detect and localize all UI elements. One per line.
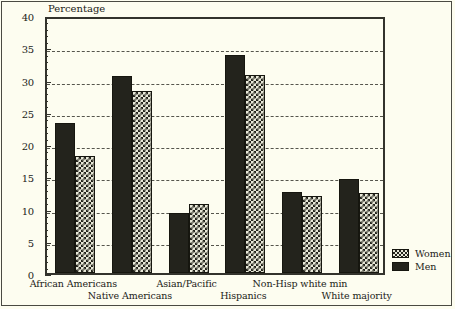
bar-women-1 (132, 91, 152, 273)
y-major-tick (45, 243, 51, 244)
bar-women-2 (189, 204, 209, 273)
legend-label-women: Women (415, 248, 451, 259)
y-minor-tick (45, 120, 48, 121)
x-tick-label-3: Hispanics (220, 290, 266, 301)
bar-men-2 (169, 213, 189, 273)
y-major-tick (45, 211, 51, 212)
y-tick-label: 30 (0, 76, 34, 87)
y-minor-tick (45, 262, 48, 263)
y-minor-tick (45, 191, 48, 192)
y-major-tick (45, 146, 51, 147)
bar-women-4 (302, 196, 322, 273)
x-tick-label-1: Native Americans (88, 290, 172, 301)
bar-women-5 (359, 193, 379, 273)
y-minor-tick (45, 101, 48, 102)
y-minor-tick (45, 36, 48, 37)
y-minor-tick (45, 230, 48, 231)
y-minor-tick (45, 152, 48, 153)
legend-swatch-men-icon (392, 262, 409, 271)
x-tick-label-4: Non-Hisp white min (253, 278, 348, 289)
y-minor-tick (45, 256, 48, 257)
gridline-35 (47, 51, 383, 52)
y-minor-tick (45, 204, 48, 205)
y-minor-tick (45, 94, 48, 95)
y-minor-tick (45, 217, 48, 218)
y-tick-label: 35 (0, 44, 34, 55)
y-minor-tick (45, 249, 48, 250)
y-minor-tick (45, 172, 48, 173)
y-major-tick (45, 17, 51, 18)
gridline-5 (47, 245, 383, 246)
y-minor-tick (45, 69, 48, 70)
bar-men-0 (55, 123, 75, 273)
plot-area (45, 17, 385, 275)
y-minor-tick (45, 107, 48, 108)
y-minor-tick (45, 198, 48, 199)
y-minor-tick (45, 165, 48, 166)
gridline-25 (47, 116, 383, 117)
bar-men-3 (225, 55, 245, 273)
plot-inner (47, 19, 383, 273)
x-tick-label-2: Asian/Pacific (156, 278, 216, 289)
y-minor-tick (45, 75, 48, 76)
y-major-tick (45, 178, 51, 179)
legend-item-women: Women (392, 248, 452, 259)
y-minor-tick (45, 43, 48, 44)
legend-swatch-women-icon (392, 249, 409, 258)
y-minor-tick (45, 56, 48, 57)
y-minor-tick (45, 140, 48, 141)
y-tick-label: 5 (0, 237, 34, 248)
y-minor-tick (45, 159, 48, 160)
gridline-15 (47, 180, 383, 181)
y-tick-label: 10 (0, 205, 34, 216)
y-minor-tick (45, 223, 48, 224)
y-tick-label: 15 (0, 173, 34, 184)
y-major-tick (45, 49, 51, 50)
x-tick-label-0: African Americans (30, 278, 117, 289)
legend-label-men: Men (415, 261, 436, 272)
y-major-tick (45, 275, 51, 276)
y-minor-tick (45, 185, 48, 186)
bar-chart-figure: Percentage 0510152025303540 African Amer… (0, 0, 455, 309)
y-axis-title: Percentage (48, 3, 105, 14)
legend-item-men: Men (392, 261, 452, 272)
y-tick-label: 25 (0, 108, 34, 119)
gridline-30 (47, 84, 383, 85)
chart-legend: Women Men (392, 248, 452, 274)
y-minor-tick (45, 23, 48, 24)
y-minor-tick (45, 133, 48, 134)
y-minor-tick (45, 127, 48, 128)
y-tick-label: 40 (0, 12, 34, 23)
bar-women-3 (245, 75, 265, 273)
y-minor-tick (45, 269, 48, 270)
y-minor-tick (45, 236, 48, 237)
y-major-tick (45, 114, 51, 115)
bar-men-5 (339, 179, 359, 273)
bar-women-0 (75, 156, 95, 273)
bar-men-4 (282, 192, 302, 273)
y-minor-tick (45, 30, 48, 31)
gridline-20 (47, 148, 383, 149)
y-axis: 0510152025303540 (0, 17, 45, 275)
x-tick-label-5: White majority (322, 290, 392, 301)
y-tick-label: 20 (0, 141, 34, 152)
y-minor-tick (45, 88, 48, 89)
y-minor-tick (45, 62, 48, 63)
gridline-10 (47, 213, 383, 214)
y-major-tick (45, 82, 51, 83)
bar-men-1 (112, 76, 132, 273)
